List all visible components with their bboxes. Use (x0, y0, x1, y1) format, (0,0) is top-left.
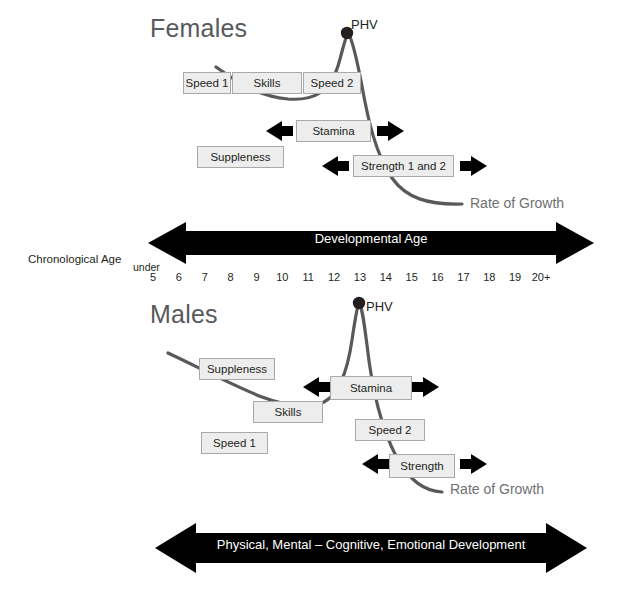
age-tick-13: 13 (354, 271, 366, 283)
females-box-suppleness[interactable]: Suppleness (197, 146, 284, 168)
males-box-speed-2[interactable]: Speed 2 (355, 419, 425, 441)
females-box-speed-1[interactable]: Speed 1 (183, 72, 231, 94)
section-title-males: Males (150, 300, 218, 329)
females-stamina-left-arrow (266, 121, 293, 141)
males-strength-right-arrow (460, 454, 487, 474)
males-stamina-right-arrow (412, 377, 439, 397)
chronological-age-label: Chronological Age (28, 253, 121, 265)
age-tick-17: 17 (457, 271, 469, 283)
females-stamina-right-arrow (377, 121, 404, 141)
age-tick-16: 16 (431, 271, 443, 283)
age-tick-10: 10 (276, 271, 288, 283)
females-growth-curve (216, 33, 462, 204)
age-tick-9: 9 (253, 271, 259, 283)
females-box-stamina[interactable]: Stamina (296, 120, 371, 142)
females-box-skills[interactable]: Skills (232, 72, 302, 94)
females-box-strength-1-and-2[interactable]: Strength 1 and 2 (353, 155, 454, 177)
age-tick-6: 6 (176, 271, 182, 283)
males-phv-dot (353, 297, 365, 309)
bottom-banner-label: Physical, Mental – Cognitive, Emotional … (217, 537, 526, 552)
females-rate-of-growth-label: Rate of Growth (470, 195, 564, 211)
figure-canvas: Females PHV Rate of Growth Speed 1 Skill… (0, 0, 630, 598)
age-tick-15: 15 (406, 271, 418, 283)
males-box-skills[interactable]: Skills (253, 401, 323, 423)
age-tick-8: 8 (228, 271, 234, 283)
age-tick-14: 14 (380, 271, 392, 283)
age-tick-18: 18 (483, 271, 495, 283)
age-tick-11: 11 (302, 271, 313, 283)
age-tick-7: 7 (202, 271, 208, 283)
females-box-speed-2[interactable]: Speed 2 (303, 72, 361, 94)
males-stamina-left-arrow (303, 377, 330, 397)
age-tick-20plus: 20+ (532, 271, 551, 283)
males-phv-label: PHV (366, 299, 393, 314)
males-box-stamina[interactable]: Stamina (330, 376, 412, 400)
males-strength-left-arrow (362, 454, 389, 474)
males-box-strength[interactable]: Strength (389, 454, 455, 478)
males-box-suppleness[interactable]: Suppleness (199, 358, 275, 380)
age-tick-5: 5 (150, 271, 156, 283)
females-phv-label: PHV (351, 17, 378, 32)
males-rate-of-growth-label: Rate of Growth (450, 481, 544, 497)
developmental-age-banner-label: Developmental Age (315, 231, 428, 246)
males-box-speed-1[interactable]: Speed 1 (201, 432, 268, 454)
age-tick-19: 19 (509, 271, 521, 283)
females-strength-right-arrow (460, 156, 487, 176)
females-strength-left-arrow (322, 156, 349, 176)
age-tick-12: 12 (328, 271, 340, 283)
section-title-females: Females (150, 14, 247, 43)
